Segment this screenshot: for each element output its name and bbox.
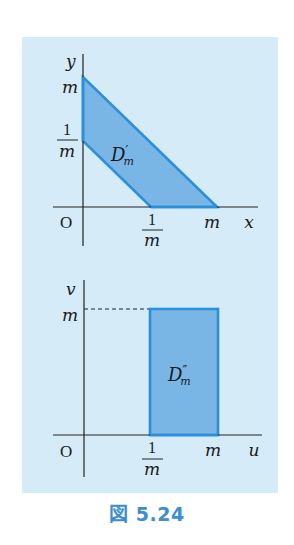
origin-label: O bbox=[60, 213, 72, 232]
y-tick-m: m bbox=[62, 77, 78, 97]
u-axis-label: u bbox=[249, 440, 260, 460]
y-axis-label: y bbox=[65, 51, 76, 71]
u-tick-m: m bbox=[205, 440, 221, 460]
region-label: D″m bbox=[167, 363, 191, 388]
figure-caption: 図 5.24 bbox=[0, 499, 294, 526]
x-tick-m: m bbox=[204, 212, 220, 232]
origin-label: O bbox=[60, 442, 72, 461]
v-axis-label: v bbox=[66, 279, 76, 299]
x-tick-inv-den: m bbox=[144, 230, 160, 250]
y-tick-inv-num: 1 bbox=[63, 121, 71, 138]
y-tick-inv-den: m bbox=[59, 141, 75, 161]
v-tick-m: m bbox=[62, 305, 78, 325]
u-tick-inv-num: 1 bbox=[148, 439, 156, 456]
figure: y m 1 m O 1 m m x D′m v m O 1 m m bbox=[0, 0, 294, 545]
u-tick-inv-den: m bbox=[144, 459, 160, 479]
x-axis-label: x bbox=[244, 212, 254, 232]
x-tick-inv-num: 1 bbox=[148, 211, 156, 228]
diagram-canvas: y m 1 m O 1 m m x D′m v m O 1 m m bbox=[0, 0, 294, 545]
